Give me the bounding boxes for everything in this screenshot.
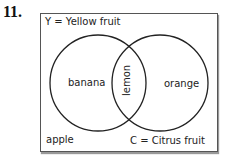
set-label-citrus: C = Citrus fruit (130, 136, 205, 146)
region-label-lemon: lemon (122, 65, 132, 96)
set-label-yellow: Y = Yellow fruit (45, 17, 120, 27)
region-label-orange: orange (164, 79, 199, 89)
region-label-apple: apple (46, 135, 74, 145)
region-label-banana: banana (68, 78, 105, 88)
